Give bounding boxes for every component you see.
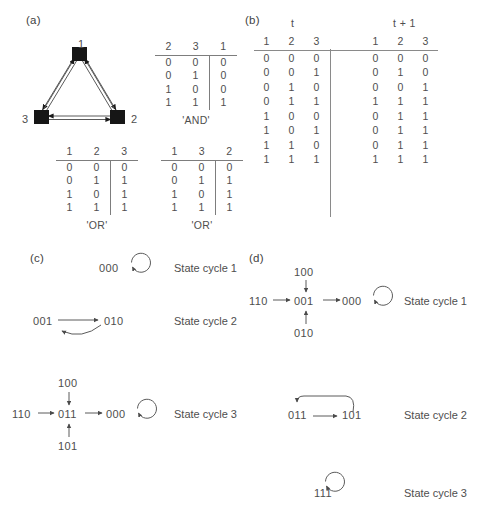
cell: 0	[83, 160, 111, 174]
col-header: 1	[161, 145, 188, 160]
state-node-c1-000[interactable]: 000	[99, 262, 119, 274]
cell: 0	[210, 55, 238, 69]
cell: 1	[363, 152, 388, 167]
table-row: 0 0 0	[161, 160, 243, 174]
table-row: 0 1 1 1 1 1	[254, 94, 438, 109]
table-header-row: 1 2 3	[56, 145, 138, 160]
cycle-label-c2: State cycle 2	[174, 315, 237, 327]
cell: 1	[182, 96, 210, 110]
cell: 1	[254, 152, 279, 167]
edge-3-2	[48, 116, 111, 120]
spacer	[329, 109, 363, 124]
self-loop-arrow-d3	[319, 469, 359, 499]
cell: 1	[388, 123, 413, 138]
cell: 1	[388, 152, 413, 167]
cell: 1	[413, 138, 438, 153]
table-row: 1 0 1 0 1 1	[254, 123, 438, 138]
cell: 0	[254, 80, 279, 95]
panel-label-a: (a)	[26, 14, 41, 26]
cell: 1	[83, 174, 111, 188]
cell: 1	[388, 65, 413, 80]
cell: 0	[279, 50, 304, 65]
network-node-3[interactable]	[34, 110, 49, 124]
table-row: 0 1 1	[161, 174, 243, 188]
table-header-row: 1 2 3 1 2 3	[254, 34, 438, 50]
table-caption: 'OR'	[56, 219, 138, 231]
cell: 0	[363, 109, 388, 124]
table-row: 1 0 0 0 1 1	[254, 109, 438, 124]
cell: 0	[254, 65, 279, 80]
table-row: 0 1 0	[155, 69, 237, 83]
panel-label-d: (d)	[249, 252, 264, 264]
cycle-label-c3: State cycle 3	[174, 408, 237, 420]
cell: 0	[210, 83, 238, 97]
table-row: 0 1 0 0 0 1	[254, 80, 438, 95]
col-header: 3	[413, 34, 438, 50]
cell: 1	[304, 94, 329, 109]
cell: 1	[279, 80, 304, 95]
col-header: 2	[216, 145, 244, 160]
cell: 1	[111, 174, 139, 188]
table-row: 0 0 0	[155, 55, 237, 69]
transition-arrows-c2	[56, 310, 108, 346]
cell: 1	[388, 94, 413, 109]
cell: 1	[254, 138, 279, 153]
col-header: 3	[182, 40, 210, 55]
cell: 1	[304, 65, 329, 80]
cycle-label-d1: State cycle 1	[404, 295, 467, 307]
cell: 1	[254, 109, 279, 124]
time-label-t: t	[291, 17, 294, 29]
network-node-label-3: 3	[22, 113, 29, 125]
cell: 1	[279, 94, 304, 109]
cell: 0	[363, 138, 388, 153]
cell: 0	[254, 50, 279, 65]
col-header: 2	[155, 40, 182, 55]
spacer	[329, 94, 363, 109]
table-caption: 'OR'	[161, 219, 243, 231]
state-node-c2-001[interactable]: 001	[33, 315, 53, 327]
cycle-label-d3: State cycle 3	[404, 487, 467, 499]
network-node-label-1: 1	[78, 38, 85, 50]
table-header-row: 2 3 1	[155, 40, 237, 55]
cell: 1	[413, 109, 438, 124]
cell: 0	[161, 160, 188, 174]
spacer	[329, 123, 363, 138]
cell: 0	[254, 94, 279, 109]
network-node-2[interactable]	[110, 110, 125, 124]
col-header: 2	[83, 145, 111, 160]
self-loop-arrow-c1	[125, 250, 165, 280]
cell: 1	[279, 138, 304, 153]
cell: 1	[56, 188, 83, 202]
spacer	[329, 152, 363, 167]
col-header: 3	[111, 145, 139, 160]
self-loop-arrow-c3	[131, 396, 171, 426]
cell: 0	[155, 69, 182, 83]
table-row: 1 1 1	[56, 201, 138, 215]
and-truth-table: 2 3 1 0 0 0 0 1 0 1 0	[155, 40, 237, 126]
col-header: 1	[254, 34, 279, 50]
cell: 0	[363, 80, 388, 95]
cell: 0	[111, 160, 139, 174]
cycle-label-c1: State cycle 1	[174, 262, 237, 274]
cell: 1	[161, 188, 188, 202]
col-header: 1	[56, 145, 83, 160]
cell: 1	[216, 201, 244, 215]
edge-1-3	[43, 59, 77, 111]
table-row: 0 0 1 0 1 0	[254, 65, 438, 80]
or-truth-table-1: 1 2 3 0 0 0 0 1 1 1 0	[56, 145, 138, 231]
cell: 0	[216, 160, 244, 174]
cell: 0	[388, 80, 413, 95]
time-label-t-plus-1: t + 1	[393, 17, 416, 29]
cell: 0	[304, 138, 329, 153]
spacer	[329, 34, 363, 50]
cell: 1	[161, 201, 188, 215]
cell: 1	[111, 188, 139, 202]
col-header: 2	[279, 34, 304, 50]
cell: 0	[304, 80, 329, 95]
cell: 0	[279, 123, 304, 138]
table-row: 1 1 0 0 1 1	[254, 138, 438, 153]
table-row: 1 1 1	[161, 201, 243, 215]
table-caption: 'AND'	[155, 114, 237, 126]
cell: 1	[155, 83, 182, 97]
cell: 0	[363, 50, 388, 65]
